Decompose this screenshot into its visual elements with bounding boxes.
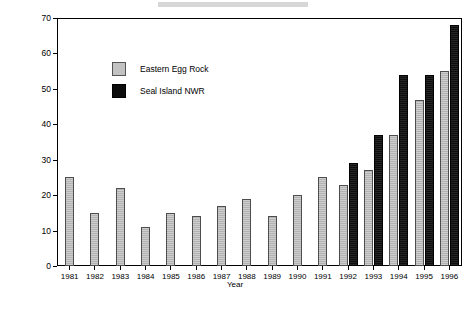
x-tick-mark	[246, 266, 247, 270]
y-tick-label: 20	[23, 190, 57, 200]
legend-label-eastern-egg-rock: Eastern Egg Rock	[140, 64, 209, 74]
bar-eastern-egg-rock	[318, 177, 327, 266]
bar-series-container	[57, 18, 462, 266]
x-tick-mark	[145, 266, 146, 270]
x-tick-mark	[297, 266, 298, 270]
legend-swatch-icon-eastern-egg-rock	[112, 62, 126, 76]
y-tick-label: 10	[23, 226, 57, 236]
bar-eastern-egg-rock	[440, 71, 449, 266]
x-tick-mark	[424, 266, 425, 270]
x-tick-mark	[94, 266, 95, 270]
chart-legend: Eastern Egg Rock Seal Island NWR	[112, 58, 262, 102]
legend-item-eastern-egg-rock: Eastern Egg Rock	[112, 58, 262, 80]
scan-artifact	[158, 2, 308, 7]
bar-eastern-egg-rock	[364, 170, 373, 266]
chart-figure: Percent of non-translocated nesting Atla…	[0, 0, 470, 332]
x-tick-mark	[69, 266, 70, 270]
x-tick-mark	[322, 266, 323, 270]
x-tick-mark	[221, 266, 222, 270]
bar-eastern-egg-rock	[217, 206, 226, 266]
legend-label-seal-island-nwr: Seal Island NWR	[140, 86, 205, 96]
y-tick-label: 60	[23, 48, 57, 58]
x-tick-mark	[272, 266, 273, 270]
x-tick-mark	[170, 266, 171, 270]
x-tick-mark	[348, 266, 349, 270]
bar-eastern-egg-rock	[242, 199, 251, 266]
bar-eastern-egg-rock	[192, 216, 201, 266]
bar-seal-island-nwr	[349, 163, 358, 266]
bar-eastern-egg-rock	[166, 213, 175, 266]
bar-eastern-egg-rock	[339, 185, 348, 266]
bar-seal-island-nwr	[425, 75, 434, 266]
bar-seal-island-nwr	[450, 25, 459, 266]
bar-eastern-egg-rock	[90, 213, 99, 266]
y-tick-label: 30	[23, 155, 57, 165]
legend-item-seal-island-nwr: Seal Island NWR	[112, 80, 262, 102]
y-tick-label: 40	[23, 119, 57, 129]
bar-eastern-egg-rock	[116, 188, 125, 266]
bar-seal-island-nwr	[399, 75, 408, 266]
bar-eastern-egg-rock	[65, 177, 74, 266]
x-tick-mark	[398, 266, 399, 270]
x-axis-title: Year	[0, 280, 470, 289]
bar-eastern-egg-rock	[389, 135, 398, 266]
y-tick-label: 0	[23, 261, 57, 271]
x-tick-mark	[196, 266, 197, 270]
x-tick-mark	[120, 266, 121, 270]
bar-eastern-egg-rock	[268, 216, 277, 266]
x-tick-mark	[373, 266, 374, 270]
bar-eastern-egg-rock	[293, 195, 302, 266]
bar-eastern-egg-rock	[415, 100, 424, 267]
y-tick-label: 50	[23, 84, 57, 94]
legend-swatch-icon-seal-island-nwr	[112, 84, 126, 98]
x-tick-mark	[449, 266, 450, 270]
bar-seal-island-nwr	[374, 135, 383, 266]
bar-eastern-egg-rock	[141, 227, 150, 266]
y-tick-label: 70	[23, 13, 57, 23]
